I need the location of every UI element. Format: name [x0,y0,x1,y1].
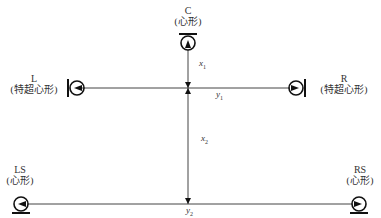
mic-c-name: C [168,5,208,16]
arrow-x2-bottom [185,198,191,204]
mic-ls-name: LS [2,164,38,175]
mic-c-pattern: (心形) [168,16,208,27]
mic-c-icon [179,34,197,50]
mic-rs-pattern: (心形) [342,175,378,186]
mic-r-pattern: (特超心形) [313,84,375,95]
mic-rs-icon [350,197,368,213]
dim-x1-label: x1 [199,58,206,70]
mic-ls-icon [12,197,30,213]
arrow-x1 [185,82,191,88]
label-mic-ls: LS (心形) [2,164,38,186]
mic-l-icon [68,79,84,97]
mic-array-diagram [0,0,381,218]
label-mic-l: L (特超心形) [4,73,64,95]
mic-l-name: L [4,73,64,84]
mic-rs-name: RS [342,164,378,175]
dim-x2-label: x2 [201,133,208,145]
dim-y1-label: y1 [216,89,223,101]
dim-y2-label: y2 [186,205,193,217]
mic-r-icon [289,79,305,97]
mic-ls-pattern: (心形) [2,175,38,186]
label-mic-rs: RS (心形) [342,164,378,186]
label-mic-c: C (心形) [168,5,208,27]
label-mic-r: R (特超心形) [313,73,375,95]
mic-r-name: R [313,73,375,84]
arrow-x2-top [185,88,191,94]
mic-l-pattern: (特超心形) [4,84,64,95]
